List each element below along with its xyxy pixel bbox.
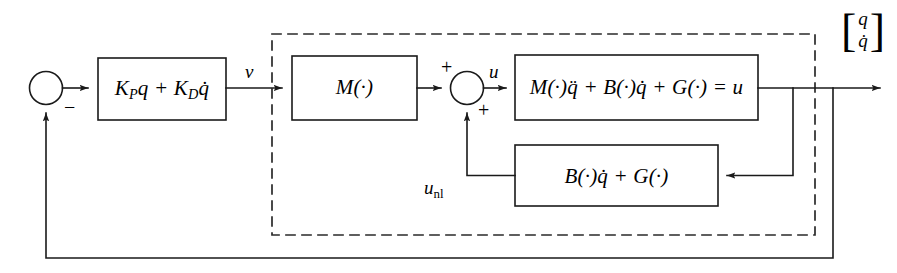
wire-nonlinear-to-sum <box>467 113 515 176</box>
signal-label-u-nl: unl <box>424 178 444 201</box>
error-junction-negative-sign: − <box>64 97 75 117</box>
pd-controller-block[interactable] <box>98 58 226 120</box>
diagram-vector-layer <box>0 0 897 273</box>
nonlinear-compensation-block[interactable] <box>515 145 718 206</box>
inertia-block[interactable] <box>292 56 417 120</box>
output-state-vector: [ q q̇ ] <box>841 8 885 53</box>
vector-bracket-left: [ <box>841 11 856 51</box>
torque-summing-junction[interactable] <box>450 71 484 105</box>
signal-label-u: u <box>489 62 499 81</box>
torque-junction-top-positive-sign: + <box>441 57 452 77</box>
error-summing-junction[interactable] <box>29 71 63 105</box>
torque-junction-bottom-positive-sign: + <box>478 100 489 120</box>
vector-entries: q q̇ <box>856 8 870 53</box>
signal-label-v: ν <box>245 62 253 81</box>
vector-entry-qdot: q̇ <box>858 30 868 52</box>
plant-dynamics-block[interactable] <box>515 55 758 120</box>
block-diagram-canvas: KPq + KDq̇ M(·) M(·)q̈ + B(·)q̇ + G(·) =… <box>0 0 897 273</box>
vector-entry-q: q <box>858 8 868 30</box>
vector-bracket-right: ] <box>870 11 885 51</box>
